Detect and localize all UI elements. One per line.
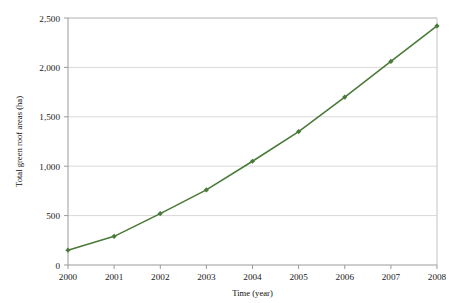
line-chart-figure: 2,500 2,000 1,500 1,000 500 0 2000 2001 …	[0, 0, 464, 303]
x-axis-tick-labels: 2000 2001 2002 2003 2004 2005 2006 2007 …	[59, 272, 447, 282]
x-axis-title: Time (year)	[232, 288, 273, 298]
xtick-label-2001: 2001	[105, 272, 124, 282]
xtick-label-2004: 2004	[243, 272, 262, 282]
xtick-label-2000: 2000	[59, 272, 78, 282]
xtick-label-2005: 2005	[289, 272, 308, 282]
xtick-label-2007: 2007	[382, 272, 401, 282]
y-axis-title: Total green roof areas (ha)	[14, 96, 24, 187]
xtick-label-2008: 2008	[428, 272, 447, 282]
chart-canvas: 2,500 2,000 1,500 1,000 500 0 2000 2001 …	[0, 0, 464, 303]
xtick-label-2003: 2003	[197, 272, 216, 282]
xtick-label-2006: 2006	[336, 272, 355, 282]
chart-background	[0, 0, 464, 303]
ytick-label-2000: 2,000	[39, 63, 60, 73]
ytick-label-1500: 1,500	[39, 112, 60, 122]
ytick-label-1000: 1,000	[39, 162, 60, 172]
xtick-label-2002: 2002	[151, 272, 170, 282]
ytick-label-0: 0	[55, 261, 60, 271]
ytick-label-2500: 2,500	[39, 14, 60, 24]
ytick-label-500: 500	[46, 211, 60, 221]
